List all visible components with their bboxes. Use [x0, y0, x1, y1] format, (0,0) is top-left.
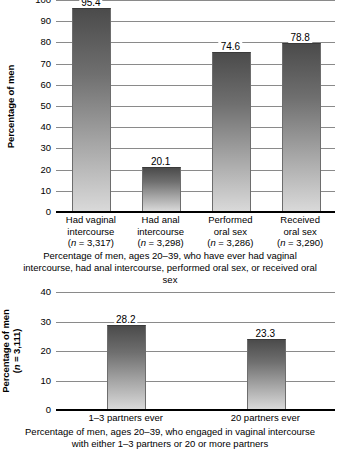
x-axis-category-label: Had vaginalintercourse(n = 3,317): [66, 214, 116, 249]
y-axis-tick-label: 0: [46, 405, 51, 415]
x-axis-category-label: 1–3 partners ever: [89, 412, 163, 424]
y-axis-title-2: Percentage of men (n = 3,111): [0, 292, 22, 410]
figure-caption-2: Percentage of men, ages 20–39, who engag…: [20, 426, 320, 450]
x-axis-category-label: Performedoral sex(n = 3,286): [207, 214, 253, 249]
bar-value-label: 78.8: [288, 32, 311, 43]
x-axis-sample-size: (n = 3,290): [277, 237, 323, 249]
x-axis-category-line: intercourse: [137, 226, 184, 238]
y-axis-tick-label: 100: [35, 0, 51, 5]
bar-value-label: 20.1: [149, 156, 172, 167]
y-axis-title-subtext-2: (n = 3,111): [11, 309, 22, 392]
plot-area-2: Percentage of men (n = 3,111) 010203040 …: [0, 292, 337, 410]
y-axis-tick-label: 30: [40, 317, 51, 327]
gridline: [56, 292, 335, 293]
y-axis-tick-label: 80: [40, 37, 51, 47]
bar: [247, 339, 286, 409]
y-axis-title-1: Percentage of men: [0, 0, 22, 212]
figure-caption-1: Percentage of men, ages 20–39, who have …: [20, 250, 320, 286]
bar: [142, 167, 181, 211]
x-axis-category-line: intercourse: [66, 226, 116, 238]
y-axis-tick-label: 40: [40, 287, 51, 297]
x-axis-category-line: Had vaginal: [66, 214, 116, 226]
x-axis-category-line: oral sex: [207, 226, 253, 238]
plot-grid-2: 28.223.3: [56, 292, 335, 410]
y-axis-tick-label: 10: [40, 186, 51, 196]
x-axis-category-line: oral sex: [277, 226, 323, 238]
x-axis-category-line: Received: [277, 214, 323, 226]
y-axis-tick-label: 40: [40, 122, 51, 132]
y-axis-tick-label: 50: [40, 101, 51, 111]
plot-area-1: Percentage of men 0102030405060708090100…: [0, 0, 337, 212]
y-axis-tick-label: 20: [40, 165, 51, 175]
gridline: [56, 351, 335, 352]
gridline: [56, 322, 335, 323]
y-axis-tick-label: 60: [40, 80, 51, 90]
y-axis-n-value-2: = 3,111): [11, 329, 22, 365]
figure-page: Percentage of men 0102030405060708090100…: [0, 0, 337, 468]
x-axis-sample-size: (n = 3,317): [66, 237, 116, 249]
bar-value-label: 23.3: [254, 328, 277, 339]
x-axis-labels-2: 1–3 partners ever20 partners ever: [56, 410, 335, 426]
y-axis-tick-labels-2: 010203040: [22, 292, 54, 410]
y-axis-tick-label: 30: [40, 143, 51, 153]
x-axis-category-line: 20 partners ever: [231, 412, 300, 424]
x-axis-category-label: 20 partners ever: [231, 412, 300, 424]
x-axis-category-label: Had analintercourse(n = 3,298): [137, 214, 184, 249]
y-axis-tick-label: 10: [40, 376, 51, 386]
x-axis-labels-1: Had vaginalintercourse(n = 3,317)Had ana…: [56, 212, 335, 252]
y-axis-tick-labels-1: 0102030405060708090100: [22, 0, 54, 212]
bar-value-label: 95.4: [79, 0, 102, 8]
x-axis-category-label: Receivedoral sex(n = 3,290): [277, 214, 323, 249]
x-axis-sample-size: (n = 3,298): [137, 237, 184, 249]
bar-value-label: 28.2: [114, 314, 137, 325]
x-axis-sample-size: (n = 3,286): [207, 237, 253, 249]
y-axis-tick-label: 70: [40, 59, 51, 69]
x-axis-category-line: Had anal: [137, 214, 184, 226]
bar-value-label: 74.6: [219, 41, 242, 52]
bar: [212, 52, 251, 211]
chart-partner-counts: Percentage of men (n = 3,111) 010203040 …: [0, 292, 337, 468]
x-axis-category-line: Performed: [207, 214, 253, 226]
chart-sexual-behaviors: Percentage of men 0102030405060708090100…: [0, 0, 337, 288]
y-axis-tick-label: 0: [46, 207, 51, 217]
y-axis-title-text-2: Percentage of men: [0, 309, 11, 392]
plot-grid-1: 95.420.174.678.8: [56, 0, 335, 212]
bar: [72, 8, 111, 211]
y-axis-tick-label: 20: [40, 346, 51, 356]
bar: [282, 43, 321, 211]
x-axis-category-line: 1–3 partners ever: [89, 412, 163, 424]
bar: [107, 325, 146, 409]
gridline: [56, 381, 335, 382]
y-axis-tick-label: 90: [40, 16, 51, 26]
y-axis-title-text-1: Percentage of men: [6, 64, 17, 147]
